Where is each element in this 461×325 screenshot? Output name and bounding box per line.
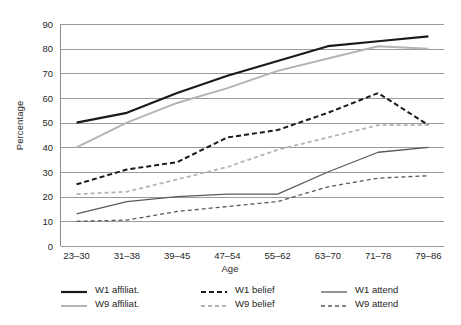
x-tick-label: 31–38: [114, 250, 140, 261]
y-axis-tick-labels: 0102030405060708090: [42, 19, 53, 252]
chart-plot-area: 0102030405060708090 23–3031–3839–4547–54…: [0, 0, 461, 325]
legend-label: W9 affiliat.: [95, 298, 139, 310]
legend-label: W9 attend: [355, 298, 398, 310]
x-axis-title: Age: [190, 263, 270, 274]
legend-column-2: W1 attendW9 attend: [320, 283, 398, 311]
y-tick-label: 90: [42, 19, 53, 30]
legend-column-0: W1 affiliat.W9 affiliat.: [60, 283, 139, 311]
line-chart: 0102030405060708090 23–3031–3839–4547–54…: [0, 0, 461, 325]
series-line-2: [77, 93, 429, 184]
y-tick-label: 70: [42, 68, 53, 79]
legend-label: W1 attend: [355, 284, 398, 296]
gridlines: [61, 25, 444, 247]
chart-legend: W1 affiliat.W9 affiliat.W1 beliefW9 beli…: [0, 283, 461, 323]
x-tick-label: 23–30: [63, 250, 89, 261]
x-tick-label: 71–78: [365, 250, 391, 261]
legend-swatch-icon: [320, 284, 348, 296]
legend-item[interactable]: W1 attend: [320, 283, 398, 297]
y-axis-title: Percentage: [14, 81, 25, 171]
x-tick-label: 47–54: [214, 250, 240, 261]
legend-item[interactable]: W9 belief: [200, 297, 275, 311]
x-tick-label: 55–62: [264, 250, 290, 261]
series-line-5: [77, 176, 429, 222]
legend-item[interactable]: W1 belief: [200, 283, 275, 297]
x-tick-label: 63–70: [315, 250, 341, 261]
legend-column-1: W1 beliefW9 belief: [200, 283, 275, 311]
x-axis-tick-labels: 23–3031–3839–4547–5455–6263–7071–7879–86: [63, 250, 441, 261]
legend-label: W9 belief: [235, 298, 275, 310]
y-tick-label: 30: [42, 167, 53, 178]
series-line-1: [77, 46, 429, 147]
y-tick-label: 80: [42, 43, 53, 54]
x-tick-label: 39–45: [164, 250, 190, 261]
y-tick-label: 20: [42, 191, 53, 202]
legend-label: W1 belief: [235, 284, 275, 296]
legend-swatch-icon: [60, 284, 88, 296]
data-series-group: [77, 36, 429, 221]
legend-item[interactable]: W1 affiliat.: [60, 283, 139, 297]
y-tick-label: 10: [42, 216, 53, 227]
legend-label: W1 affiliat.: [95, 284, 139, 296]
legend-item[interactable]: W9 attend: [320, 297, 398, 311]
y-tick-label: 50: [42, 117, 53, 128]
series-line-3: [77, 125, 429, 194]
legend-swatch-icon: [200, 284, 228, 296]
y-tick-label: 0: [48, 241, 53, 252]
legend-swatch-icon: [60, 298, 88, 310]
y-tick-label: 40: [42, 142, 53, 153]
y-tick-label: 60: [42, 93, 53, 104]
legend-swatch-icon: [200, 298, 228, 310]
x-tick-label: 79–86: [415, 250, 441, 261]
legend-item[interactable]: W9 affiliat.: [60, 297, 139, 311]
legend-swatch-icon: [320, 298, 348, 310]
